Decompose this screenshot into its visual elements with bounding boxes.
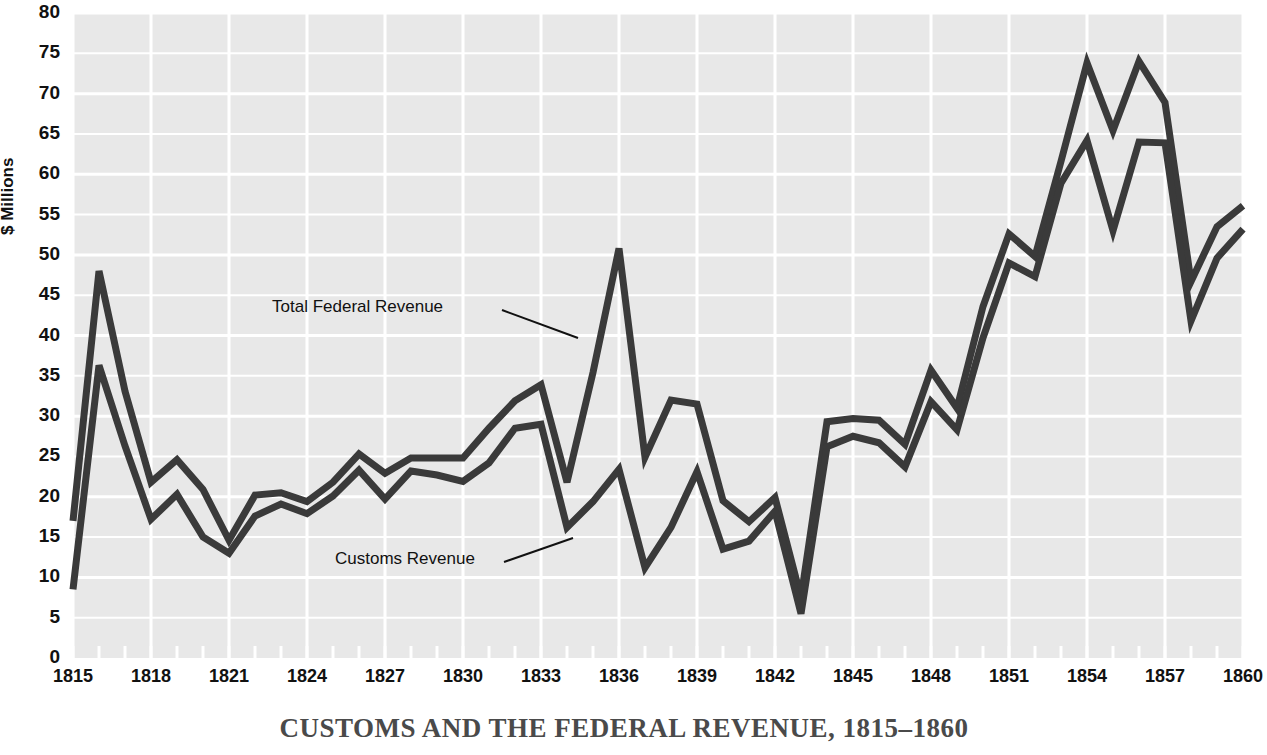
annotation-customs-revenue: Customs Revenue	[335, 549, 475, 569]
chart-title: CUSTOMS AND THE FEDERAL REVENUE, 1815–18…	[0, 713, 1248, 744]
annotation-total-federal-revenue: Total Federal Revenue	[272, 297, 443, 317]
